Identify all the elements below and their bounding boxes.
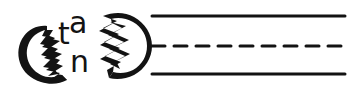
sketch-canvas: t a n — [0, 0, 355, 94]
letter-a-glyph: a — [69, 5, 87, 40]
sketch-drawing: t a n — [0, 0, 355, 94]
letter-n-glyph: n — [70, 44, 89, 79]
horizontal-lines-group — [152, 16, 345, 74]
right-cracked-disc — [99, 13, 152, 79]
